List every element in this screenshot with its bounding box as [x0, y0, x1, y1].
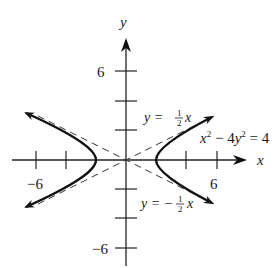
svg-text:1: 1	[178, 194, 183, 204]
asymptote-label-negative: y = − 1 2 x	[139, 194, 194, 214]
x-tick-label-6: 6	[210, 176, 218, 192]
svg-text:x: x	[186, 196, 194, 211]
x-tick-label-neg6: −6	[27, 176, 43, 192]
svg-text:y =: y =	[142, 110, 163, 125]
svg-text:2: 2	[178, 204, 183, 214]
svg-text:y = −: y = −	[139, 196, 173, 211]
y-tick-label-6: 6	[97, 64, 105, 80]
y-tick-label-neg6: −6	[92, 241, 108, 257]
y-axis-label: y	[118, 14, 127, 30]
hyperbola-diagram: y x −6 6 6 −6 y = 1 2 x y = − 1 2 x x2 −…	[0, 0, 274, 268]
svg-text:x: x	[184, 110, 192, 125]
x-axis-label: x	[256, 152, 264, 168]
curve-equation-label: x2 − 4y2 = 4	[199, 129, 270, 146]
svg-text:1: 1	[177, 108, 182, 118]
svg-text:2: 2	[177, 118, 182, 128]
asymptote-label-positive: y = 1 2 x	[142, 108, 192, 128]
